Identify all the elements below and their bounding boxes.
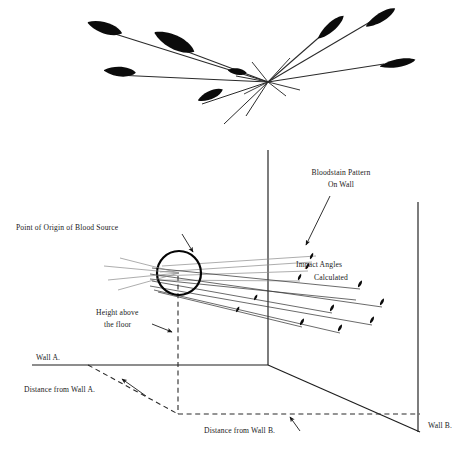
bloodstain-pattern-analysis-figure: Bloodstain Pattern On Wall Point of Orig… bbox=[0, 0, 455, 455]
bloodstain-pattern-label-line1: Bloodstain Pattern bbox=[311, 168, 370, 177]
height-above-floor-label-line2: the floor bbox=[104, 320, 132, 329]
distance-from-wall-b-leader-arrow bbox=[290, 417, 300, 431]
wall-stain bbox=[297, 273, 302, 280]
wall-stain bbox=[329, 304, 335, 312]
distance-from-wall-b-label: Distance from Wall B. bbox=[204, 426, 275, 435]
top-convergence-panel bbox=[86, 5, 416, 124]
wall-stain bbox=[357, 280, 363, 288]
origin-convergence-rays bbox=[104, 258, 179, 290]
floor-right-edge bbox=[268, 365, 420, 432]
wall-b-label: Wall B. bbox=[428, 421, 452, 430]
height-above-floor-leader-arrow bbox=[152, 324, 172, 332]
impact-angles-label-line2: Calculated bbox=[314, 273, 348, 282]
distance-from-wall-a-label: Distance from Wall A. bbox=[24, 385, 95, 394]
figure-canvas: Bloodstain Pattern On Wall Point of Orig… bbox=[0, 0, 455, 455]
bloodstain-pattern-leader-arrow bbox=[306, 196, 330, 245]
distance-from-wall-a-dashed bbox=[88, 365, 178, 414]
wall-stain bbox=[369, 316, 375, 324]
wall-a-label: Wall A. bbox=[36, 353, 60, 362]
point-of-origin-label: Point of Origin of Blood Source bbox=[16, 223, 119, 232]
point-of-origin-leader-arrow bbox=[182, 234, 193, 252]
blood-stain bbox=[152, 26, 197, 59]
wall-stain bbox=[379, 298, 385, 306]
blood-stain bbox=[379, 56, 416, 70]
top-bloodstains bbox=[86, 5, 416, 104]
wall-stain bbox=[337, 324, 343, 332]
blood-stain bbox=[86, 17, 124, 40]
blood-stain bbox=[364, 5, 398, 30]
room-reconstruction-panel: Bloodstain Pattern On Wall Point of Orig… bbox=[16, 150, 452, 435]
distance-from-wall-a-leader-arrow bbox=[122, 379, 146, 396]
height-above-floor-label-line1: Height above bbox=[96, 308, 139, 317]
blood-stain bbox=[315, 13, 347, 41]
bloodstain-pattern-label-line2: On Wall bbox=[328, 180, 354, 189]
impact-angles-label-line1: Impact Angles bbox=[296, 260, 342, 269]
